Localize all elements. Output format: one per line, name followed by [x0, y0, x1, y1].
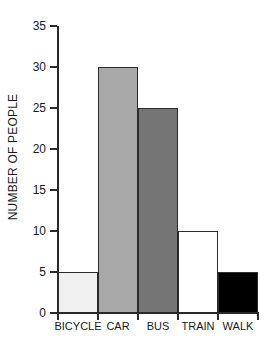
y-axis-tick [50, 107, 57, 109]
y-axis-tick-label: 35 [6, 20, 46, 32]
bar-cell [58, 26, 98, 313]
x-axis-tick [97, 313, 99, 320]
y-axis-tick-label: 15 [6, 184, 46, 196]
plot-area [58, 26, 258, 313]
bar-bicycle[interactable] [58, 272, 98, 313]
y-axis-tick [50, 66, 57, 68]
y-axis-tick-label: 25 [6, 102, 46, 114]
x-axis-tick [177, 313, 179, 320]
x-axis-tick [57, 313, 59, 320]
bar-cell [138, 26, 178, 313]
y-axis-tick [50, 312, 57, 314]
bar-cell [178, 26, 218, 313]
y-axis-tick [50, 148, 57, 150]
bar-cell [218, 26, 258, 313]
y-axis-tick-label: 0 [6, 307, 46, 319]
y-axis-tick-label: 30 [6, 61, 46, 73]
bar-car[interactable] [98, 67, 138, 313]
y-axis-tick [50, 230, 57, 232]
bar-chart: NUMBER OF PEOPLE 05101520253035 BICYCLEC… [0, 0, 280, 350]
bar-walk[interactable] [218, 272, 258, 313]
y-axis-tick [50, 25, 57, 27]
x-axis-label-walk: WALK [206, 320, 270, 332]
bar-train[interactable] [178, 231, 218, 313]
y-axis-tick-label: 5 [6, 266, 46, 278]
y-axis-tick [50, 189, 57, 191]
x-axis-tick [257, 313, 259, 320]
x-axis-tick [217, 313, 219, 320]
y-axis-tick-label: 20 [6, 143, 46, 155]
bar-bus[interactable] [138, 108, 178, 313]
bar-cell [98, 26, 138, 313]
y-axis-tick [50, 271, 57, 273]
y-axis-tick-label: 10 [6, 225, 46, 237]
x-axis-tick [137, 313, 139, 320]
